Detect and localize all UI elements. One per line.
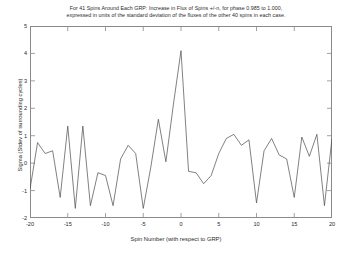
y-tick-label: 0: [3, 160, 27, 166]
data-series-line: [30, 26, 332, 218]
y-tick-label: -1: [3, 188, 27, 194]
x-tick-label: -10: [93, 221, 119, 227]
y-tick-label: 2: [3, 105, 27, 111]
x-axis-label: Spin Number (with respect to GRP): [0, 236, 352, 242]
y-tick-label: 5: [3, 23, 27, 29]
x-tick-label: 10: [244, 221, 270, 227]
figure-container: For 41 Spins Around Each GRP: Increase i…: [0, 0, 352, 257]
x-tick-label: 5: [206, 221, 232, 227]
x-tick-label: 0: [168, 221, 194, 227]
y-tick-label: 3: [3, 78, 27, 84]
x-tick-label: -5: [130, 221, 156, 227]
x-tick-label: 20: [319, 221, 345, 227]
y-axis-label: Sigma (Stdev of surrounding cycles): [17, 50, 23, 200]
y-tick-label: 4: [3, 50, 27, 56]
x-tick-label: 15: [281, 221, 307, 227]
plot-area: [30, 26, 332, 218]
x-tick-label: -15: [55, 221, 81, 227]
x-tick-label: -20: [17, 221, 43, 227]
chart-title-line-2: expressed in units of the standard devia…: [0, 12, 352, 19]
chart-title-line-1: For 41 Spins Around Each GRP: Increase i…: [0, 5, 352, 12]
y-tick-label: 1: [3, 133, 27, 139]
chart-title: For 41 Spins Around Each GRP: Increase i…: [0, 5, 352, 20]
